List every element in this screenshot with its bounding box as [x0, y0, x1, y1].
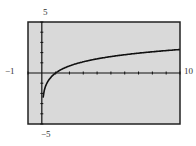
graph-screen [0, 0, 196, 146]
